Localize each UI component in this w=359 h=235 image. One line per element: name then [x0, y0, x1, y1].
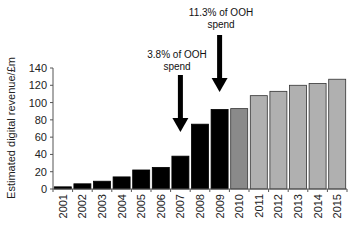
- y-tick-label: 80: [35, 114, 47, 126]
- x-tick-label: 2001: [57, 194, 69, 218]
- y-tick-label: 0: [41, 183, 47, 195]
- x-tick-label: 2013: [292, 194, 304, 218]
- x-tick-label: 2010: [233, 194, 245, 218]
- x-tick-label: 2004: [116, 194, 128, 218]
- annotation-2007: 3.8% of OOH spend: [143, 49, 211, 73]
- bar-2011: [250, 96, 267, 189]
- annotation-2009-line1: 11.3% of OOH: [184, 7, 258, 19]
- x-tick-label: 2014: [312, 194, 324, 218]
- bar-2009: [211, 109, 228, 189]
- x-tick-label: 2012: [272, 194, 284, 218]
- y-tick-label: 40: [35, 148, 47, 160]
- y-tick-label: 120: [29, 79, 47, 91]
- x-tick-label: 2002: [76, 194, 88, 218]
- y-tick-label: 100: [29, 97, 47, 109]
- x-axis: 2001200220032004200520062007200820092010…: [53, 189, 347, 218]
- bar-2010: [231, 109, 248, 189]
- arrow-2007-icon: [172, 118, 188, 132]
- annotation-2009-line2: spend: [184, 19, 258, 31]
- x-tick-label: 2006: [155, 194, 167, 218]
- bar-2003: [94, 181, 111, 189]
- y-tick-label: 20: [35, 166, 47, 178]
- bars: [54, 79, 345, 189]
- bar-2007: [172, 156, 189, 189]
- x-tick-label: 2007: [174, 194, 186, 218]
- bar-2012: [270, 91, 287, 189]
- x-tick-label: 2003: [96, 194, 108, 218]
- y-axis-label: Estimated digital revenue/£m: [5, 57, 17, 199]
- annotation-2007-line2: spend: [143, 61, 211, 73]
- y-axis: 020406080100120140: [29, 62, 53, 195]
- bar-2002: [74, 184, 91, 189]
- bar-2008: [192, 124, 209, 189]
- y-tick-label: 140: [29, 62, 47, 74]
- bar-2015: [329, 79, 346, 189]
- bar-2013: [290, 85, 307, 189]
- bar-2014: [309, 84, 326, 189]
- bar-2004: [113, 177, 130, 189]
- x-tick-label: 2008: [194, 194, 206, 218]
- x-tick-label: 2015: [331, 194, 343, 218]
- x-tick-label: 2005: [135, 194, 147, 218]
- x-tick-label: 2011: [253, 194, 265, 218]
- bar-2006: [152, 167, 169, 189]
- x-tick-label: 2009: [214, 194, 226, 218]
- y-tick-label: 60: [35, 131, 47, 143]
- arrow-2009-icon: [212, 78, 228, 92]
- bar-chart: 020406080100120140 200120022003200420052…: [0, 0, 359, 235]
- bar-2005: [133, 170, 150, 189]
- annotation-2007-line1: 3.8% of OOH: [143, 49, 211, 61]
- annotation-2009: 11.3% of OOH spend: [184, 7, 258, 31]
